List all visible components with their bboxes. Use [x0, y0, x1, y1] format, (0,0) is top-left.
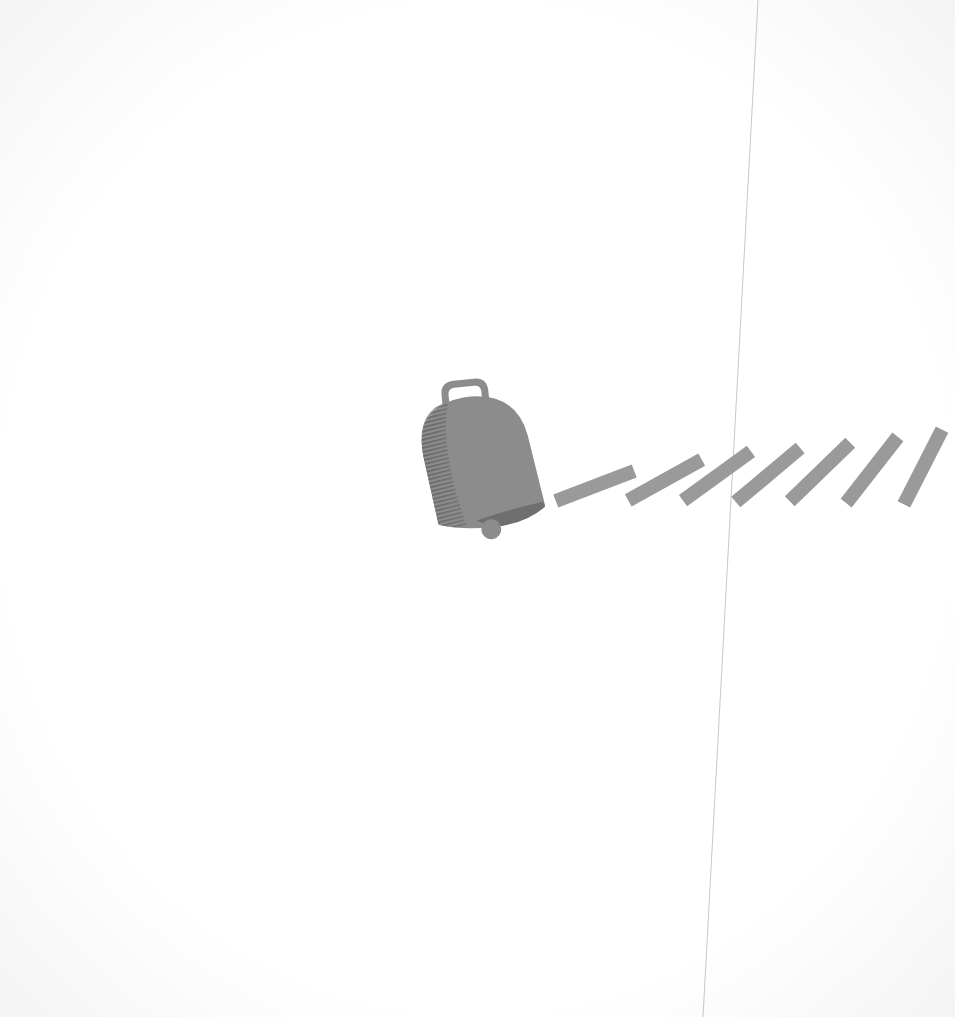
scanned-page: Cowbell illustration with motion stripes…: [0, 0, 955, 1017]
cowbell-illustration: [0, 0, 955, 1017]
motion-stripe: [553, 464, 636, 507]
motion-stripes: [553, 426, 948, 507]
motion-stripe: [898, 426, 949, 507]
cowbell-icon: [416, 376, 548, 545]
page-crease-line: [703, 0, 758, 1017]
